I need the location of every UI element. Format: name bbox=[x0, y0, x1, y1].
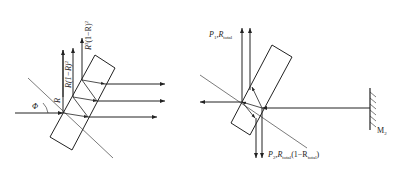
beamsplitter-diagram: Φ R R(1−R)2 R3(1−R)2 P1,Rtotal P2,Rtotal… bbox=[0, 0, 401, 171]
beam1-label: R(1−R)2 bbox=[64, 61, 73, 90]
angle-label: Φ bbox=[32, 102, 38, 111]
left-diagram bbox=[15, 38, 165, 158]
left-normal-line bbox=[28, 78, 113, 158]
beam2-label: R3(1−R)2 bbox=[84, 20, 93, 51]
p2-label: P2,Rtotal(1−Rtotal) bbox=[267, 150, 320, 160]
reflect-label: R bbox=[53, 98, 62, 104]
mirror-label: M2 bbox=[377, 126, 387, 136]
angle-arc bbox=[43, 103, 48, 113]
right-diagram bbox=[200, 28, 376, 158]
right-normal-line bbox=[200, 75, 307, 148]
p1-label: P1,Rtotal bbox=[208, 30, 233, 40]
